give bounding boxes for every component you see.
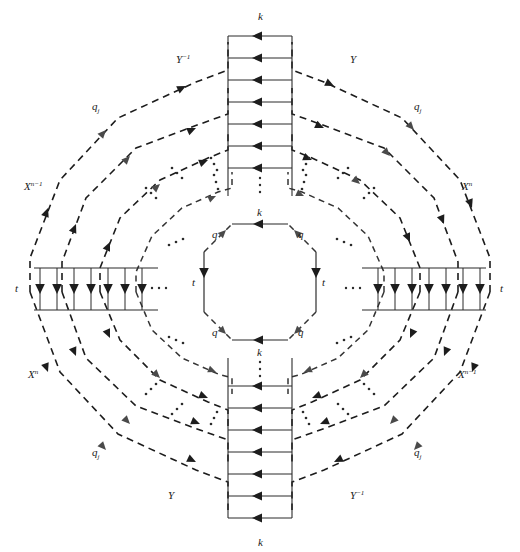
dot <box>305 417 308 420</box>
arrowhead-outer-bl2 <box>97 441 108 452</box>
dot <box>347 413 350 416</box>
dot <box>181 403 184 406</box>
dot <box>343 241 346 244</box>
arrowhead-r2-br <box>303 366 313 376</box>
dot <box>373 393 376 396</box>
label-y-inverse-top-left: Y−1 <box>176 53 190 65</box>
arrowhead-r3-left-up <box>103 240 114 251</box>
dot <box>210 157 213 160</box>
dot <box>216 169 219 172</box>
arrowhead-left <box>252 514 262 523</box>
arrowhead-outer-bl <box>186 454 198 465</box>
outer-ring-right-arc <box>292 42 490 292</box>
dot <box>168 336 171 339</box>
octagon-edge-q-bl <box>204 312 232 340</box>
label-qj-top-right: qj <box>414 100 422 115</box>
dot <box>336 342 339 345</box>
ring4-left-arc <box>62 88 228 292</box>
ring4-left-arc-bottom <box>62 292 228 464</box>
dot <box>303 181 306 184</box>
arrowhead-left <box>252 470 262 479</box>
outer-ring-left-arc <box>30 42 228 292</box>
label-k-top-inner: k <box>257 206 263 218</box>
arrowhead-left <box>252 404 262 413</box>
arrowhead-left <box>252 54 262 63</box>
arrowhead-r4-br2 <box>387 415 398 426</box>
dot <box>217 188 220 191</box>
dot <box>150 388 153 391</box>
label-t-left-outer: t <box>15 282 19 294</box>
arrowhead-down <box>373 284 383 294</box>
arrowhead-outer-left-dn <box>41 362 52 373</box>
dot <box>342 172 345 175</box>
label-t-left-inner: t <box>192 276 196 288</box>
dot <box>171 167 174 170</box>
arrowhead-outer-tl <box>176 82 188 93</box>
dot <box>182 342 185 345</box>
arrowhead-r3-tr2 <box>351 175 362 186</box>
bottom-ladder <box>228 358 292 523</box>
arrowhead-left <box>252 492 262 501</box>
outer-ring-right-arc-bottom <box>292 292 490 510</box>
dot <box>345 287 347 289</box>
dot <box>155 197 158 200</box>
label-x-n-bottom-left: Xn <box>27 368 39 380</box>
arrowhead-down <box>424 284 434 294</box>
arrowhead-r4-left-dn <box>69 346 80 357</box>
arrowhead-left <box>253 220 263 229</box>
dot <box>181 177 184 180</box>
dot <box>175 241 178 244</box>
arrowhead-r3-tl2 <box>151 181 162 192</box>
dot <box>151 287 153 289</box>
arrowhead-r3-bl2 <box>151 369 162 380</box>
dot <box>352 287 354 289</box>
dot <box>259 368 261 370</box>
arrowhead-r4-left-up <box>69 223 80 234</box>
arrowhead-r4-bl2 <box>121 415 132 426</box>
arrowhead-left <box>252 426 262 435</box>
dot <box>343 339 346 342</box>
dot <box>259 184 261 186</box>
arrowhead-down <box>390 284 400 294</box>
dot <box>350 336 353 339</box>
octagon-edge-q-tl <box>204 224 232 252</box>
bottom-ladder-vertical-dots <box>259 361 261 377</box>
dot <box>176 172 179 175</box>
right-ladder-arrowheads <box>373 284 485 294</box>
dot <box>175 339 178 342</box>
arrowhead-left <box>252 120 262 129</box>
label-q-inner-bottom-left: q <box>212 326 218 338</box>
label-k-bottom-outer: k <box>258 536 264 548</box>
label-y-inverse-bottom-right: Y−1 <box>350 489 364 501</box>
arrowhead-r4-right-up <box>440 346 451 357</box>
arrowhead-outer-left-up <box>41 207 52 218</box>
dot <box>213 163 216 166</box>
arrowhead-down <box>311 268 321 278</box>
dot <box>145 393 148 396</box>
arrowhead-down <box>69 284 79 294</box>
arrowhead-down <box>86 284 96 294</box>
ring3-left-arc-bottom <box>100 292 228 430</box>
arrowhead-r2-bl <box>207 366 217 376</box>
dot <box>308 423 311 426</box>
dot <box>373 187 376 190</box>
dot <box>337 403 340 406</box>
dot <box>363 197 366 200</box>
dot <box>359 287 361 289</box>
dot <box>158 287 160 289</box>
ring4-right-arc <box>292 88 458 292</box>
bottom-ladder-arrowheads <box>252 382 262 523</box>
top-ladder-arrowheads <box>252 32 262 173</box>
arrowhead-r4-bl <box>190 417 201 428</box>
top-ladder-vertical-dots <box>259 177 261 193</box>
arrowhead-left <box>253 336 263 345</box>
dot <box>368 192 371 195</box>
arrowhead-down <box>458 284 468 294</box>
dot <box>302 169 305 172</box>
right-ladder-horizontal-dots <box>345 287 361 289</box>
arrowhead-r2-tl <box>207 193 217 203</box>
dot <box>145 187 148 190</box>
label-k-bottom-inner: k <box>257 346 263 358</box>
arrowhead-left <box>252 98 262 107</box>
arrowhead-down <box>475 284 485 294</box>
